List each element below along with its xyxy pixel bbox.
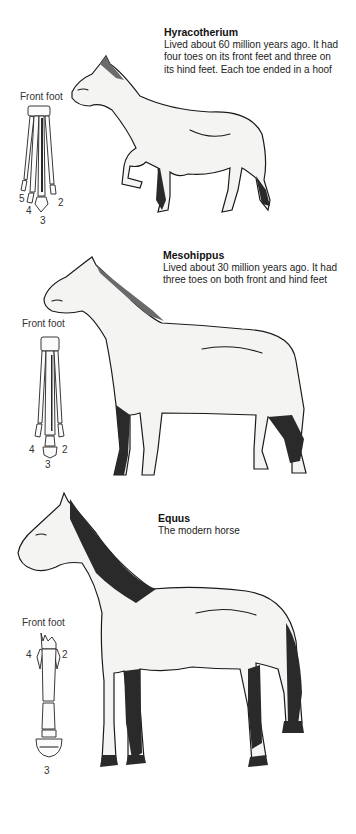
panel-equus: Equus The modern horse Front foot 4 2 3 [0, 485, 356, 834]
mesohippus-illustration-icon [42, 249, 312, 479]
toe-number-4: 4 [29, 444, 35, 455]
toe-number-2: 2 [58, 197, 64, 208]
panel-mesohippus: Mesohippus Lived about 30 million years … [0, 235, 356, 485]
toe-number-3: 3 [40, 215, 46, 226]
front-foot-label: Front foot [20, 91, 63, 102]
toe-number-5: 5 [19, 193, 25, 204]
species-name: Hyracotherium [164, 26, 356, 39]
toe-number-4: 4 [26, 205, 32, 216]
panel-hyracotherium: Hyracotherium Lived about 60 million yea… [0, 0, 356, 235]
equus-illustration-icon [16, 493, 306, 778]
hyracotherium-illustration-icon [70, 50, 280, 220]
